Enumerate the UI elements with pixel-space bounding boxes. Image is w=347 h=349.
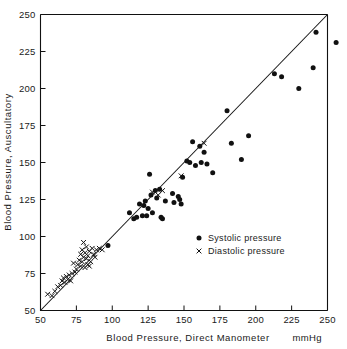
data-point-systolic bbox=[229, 141, 234, 146]
y-axis-title: Blood Pressure, Auscultatory bbox=[2, 93, 13, 230]
data-point-systolic bbox=[153, 188, 158, 193]
x-axis-tick-labels: 5075100125150175200225250 bbox=[35, 314, 336, 325]
data-point-systolic bbox=[141, 203, 146, 208]
data-point-systolic bbox=[314, 30, 319, 35]
data-point-systolic bbox=[154, 196, 159, 201]
y-tick-label: 150 bbox=[19, 157, 35, 168]
y-tick-label: 200 bbox=[19, 83, 35, 94]
data-point-diastolic bbox=[88, 259, 93, 264]
y-tick-label: 250 bbox=[19, 9, 35, 20]
data-point-systolic bbox=[246, 133, 251, 138]
data-point-systolic bbox=[147, 172, 152, 177]
data-point-systolic bbox=[170, 191, 175, 196]
data-point-systolic bbox=[179, 201, 184, 206]
units-label: mmHg bbox=[292, 332, 322, 343]
data-point-systolic bbox=[134, 215, 139, 220]
data-point-systolic bbox=[296, 86, 301, 91]
data-point-systolic bbox=[148, 193, 153, 198]
data-point-diastolic bbox=[50, 293, 55, 298]
data-point-systolic bbox=[171, 200, 176, 205]
legend-label: Systolic pressure bbox=[208, 233, 282, 243]
data-point-systolic bbox=[225, 108, 230, 113]
y-tick-label: 100 bbox=[19, 231, 35, 242]
data-point-systolic bbox=[239, 157, 244, 162]
data-point-systolic bbox=[144, 213, 149, 218]
data-point-diastolic bbox=[52, 289, 57, 294]
data-point-diastolic bbox=[87, 264, 92, 269]
y-tick-label: 50 bbox=[25, 305, 36, 316]
data-point-systolic bbox=[202, 150, 207, 155]
data-point-systolic bbox=[140, 213, 145, 218]
data-point-systolic bbox=[197, 144, 202, 149]
x-tick-label: 225 bbox=[283, 314, 299, 325]
scatter-plot-figure: 5075100125150175200225250 50751001251501… bbox=[0, 0, 347, 349]
x-axis-title: Blood Pressure, Direct Manometer bbox=[106, 332, 269, 343]
x-tick-label: 100 bbox=[104, 314, 120, 325]
data-point-systolic bbox=[163, 198, 168, 203]
series-systolic-pressure bbox=[105, 30, 338, 248]
data-point-systolic bbox=[180, 175, 185, 180]
data-point-systolic bbox=[311, 65, 316, 70]
data-point-systolic bbox=[137, 201, 142, 206]
data-point-systolic bbox=[127, 210, 132, 215]
data-point-systolic bbox=[160, 216, 165, 221]
x-tick-label: 50 bbox=[35, 314, 46, 325]
data-point-systolic bbox=[187, 160, 192, 165]
data-point-systolic bbox=[143, 198, 148, 203]
data-point-diastolic bbox=[45, 292, 50, 297]
data-point-systolic bbox=[334, 40, 339, 45]
data-point-systolic bbox=[146, 206, 151, 211]
legend-marker-diastolic bbox=[197, 249, 202, 254]
y-axis-tick-labels: 5075100125150175200225250 bbox=[19, 9, 35, 316]
x-tick-label: 125 bbox=[140, 314, 156, 325]
data-point-diastolic bbox=[84, 244, 89, 249]
data-point-systolic bbox=[272, 71, 277, 76]
data-point-systolic bbox=[210, 170, 215, 175]
data-point-diastolic bbox=[81, 240, 86, 245]
x-tick-label: 200 bbox=[248, 314, 264, 325]
data-point-systolic bbox=[177, 197, 182, 202]
data-point-systolic bbox=[204, 161, 209, 166]
y-tick-label: 175 bbox=[19, 120, 35, 131]
data-point-systolic bbox=[193, 163, 198, 168]
x-tick-label: 250 bbox=[319, 314, 335, 325]
data-point-diastolic bbox=[71, 261, 76, 266]
data-point-diastolic bbox=[90, 246, 95, 251]
chart-legend: Systolic pressureDiastolic pressure bbox=[197, 233, 285, 256]
data-point-systolic bbox=[150, 210, 155, 215]
data-point-systolic bbox=[157, 187, 162, 192]
x-tick-label: 75 bbox=[71, 314, 82, 325]
y-tick-label: 125 bbox=[19, 194, 35, 205]
y-tick-label: 225 bbox=[19, 46, 35, 57]
data-point-systolic bbox=[190, 139, 195, 144]
data-point-systolic bbox=[199, 160, 204, 165]
plot-canvas: 5075100125150175200225250 50751001251501… bbox=[0, 0, 347, 349]
data-point-systolic bbox=[105, 243, 110, 248]
data-point-systolic bbox=[279, 74, 284, 79]
legend-marker-systolic bbox=[197, 236, 202, 241]
x-tick-label: 150 bbox=[176, 314, 192, 325]
x-tick-label: 175 bbox=[212, 314, 228, 325]
y-tick-label: 75 bbox=[25, 268, 36, 279]
legend-label: Diastolic pressure bbox=[208, 246, 285, 256]
